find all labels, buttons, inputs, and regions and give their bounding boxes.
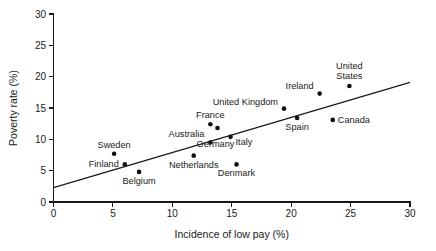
point-marker — [123, 162, 128, 167]
data-point-belgium: Belgium — [122, 170, 156, 186]
point-marker — [317, 91, 322, 96]
point-marker — [347, 84, 352, 89]
point-marker — [191, 153, 196, 158]
y-tick-label-20: 20 — [35, 71, 47, 82]
point-marker — [295, 116, 300, 121]
point-label: Spain — [285, 122, 309, 132]
data-point-sweden: Sweden — [98, 140, 131, 156]
y-axis-title: Poverty rate (%) — [7, 70, 19, 146]
data-point-canada: Canada — [330, 115, 370, 125]
x-tick-label-15: 15 — [226, 208, 238, 219]
plot-canvas: 051015202530051015202530 SwedenFinlandBe… — [0, 0, 436, 251]
data-point-france: France — [196, 110, 225, 126]
point-label: Germany — [197, 139, 235, 149]
point-marker — [208, 122, 213, 127]
x-tick-label-20: 20 — [286, 208, 298, 219]
point-label: Finland — [89, 159, 119, 169]
data-point-denmark: Denmark — [218, 162, 256, 178]
axes: 051015202530051015202530 — [35, 9, 416, 219]
data-point-united-kingdom: United Kingdom — [213, 97, 287, 111]
point-label: Denmark — [218, 168, 256, 178]
y-tick-label-15: 15 — [35, 103, 47, 114]
data-point-netherlands: Netherlands — [169, 153, 219, 169]
point-marker — [234, 162, 239, 167]
y-tick-label-5: 5 — [40, 165, 46, 176]
point-label: Italy — [236, 137, 253, 147]
x-tick-label-5: 5 — [110, 208, 116, 219]
data-point-ireland: Ireland — [286, 81, 322, 96]
point-marker — [215, 126, 220, 131]
point-marker — [330, 118, 335, 123]
scatter-chart: 051015202530051015202530 SwedenFinlandBe… — [0, 0, 436, 251]
y-tick-label-25: 25 — [35, 40, 47, 51]
point-label: Canada — [338, 115, 371, 125]
x-tick-label-25: 25 — [345, 208, 357, 219]
y-tick-label-10: 10 — [35, 134, 47, 145]
point-marker — [137, 170, 142, 175]
point-marker — [112, 151, 117, 156]
point-label-line: United — [336, 61, 363, 71]
data-points-group: SwedenFinlandBelgiumNetherlandsFranceAus… — [89, 61, 371, 186]
point-label: United Kingdom — [213, 97, 279, 107]
point-label: UnitedStates — [336, 61, 363, 81]
x-tick-label-30: 30 — [404, 208, 416, 219]
x-tick-label-10: 10 — [167, 208, 179, 219]
point-label-line: States — [336, 71, 362, 81]
point-label: Australia — [169, 129, 206, 139]
point-marker — [228, 135, 233, 140]
axis-titles: Incidence of low pay (%)Poverty rate (%) — [7, 70, 289, 240]
point-label: France — [196, 110, 225, 120]
data-point-united-states: UnitedStates — [336, 61, 363, 88]
y-tick-label-30: 30 — [35, 9, 47, 20]
point-label: Sweden — [98, 140, 131, 150]
point-label: Netherlands — [169, 160, 219, 170]
y-tick-label-0: 0 — [40, 197, 46, 208]
point-label: Ireland — [286, 81, 314, 91]
x-tick-label-0: 0 — [51, 208, 57, 219]
x-axis-title: Incidence of low pay (%) — [175, 228, 289, 240]
point-marker — [282, 106, 287, 111]
point-label: Belgium — [122, 176, 156, 186]
